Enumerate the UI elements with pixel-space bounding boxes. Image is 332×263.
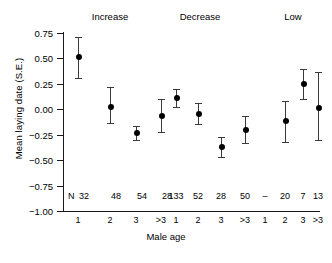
error-bar-cap-upper (218, 137, 225, 138)
data-point-marker (283, 118, 289, 124)
sample-size-value: 20 (280, 191, 290, 201)
y-tick-label: 0.25 (35, 78, 54, 89)
panel-header-increase: Increase (60, 11, 160, 22)
data-point-marker (174, 95, 180, 101)
sample-size-value: 133 (168, 191, 183, 201)
sample-size-value: 7 (300, 191, 305, 201)
sample-size-value: 13 (313, 191, 323, 201)
y-tick-label: −0.75 (29, 180, 53, 191)
data-point-marker (108, 104, 114, 110)
data-point-marker (76, 54, 82, 60)
error-bar-cap-upper (158, 99, 165, 100)
data-point-marker (196, 111, 202, 117)
y-tick-mark (57, 160, 63, 161)
x-tick-label: 2 (107, 215, 112, 225)
error-bar-cap-upper (107, 87, 114, 88)
x-tick-label: 3 (218, 215, 223, 225)
x-tick-label: 1 (173, 215, 178, 225)
x-tick-label: 3 (133, 215, 138, 225)
sample-size-value: 48 (111, 191, 121, 201)
x-tick-label: >3 (156, 215, 166, 225)
error-bar-cap-lower (282, 142, 289, 143)
y-tick-mark (57, 33, 63, 34)
sample-size-value: 54 (137, 191, 147, 201)
y-tick-mark (57, 58, 63, 59)
x-tick-label: 3 (300, 215, 305, 225)
error-bar-cap-upper (282, 101, 289, 102)
error-bar-cap-lower (195, 124, 202, 125)
panel-header-decrease: Decrease (150, 11, 250, 22)
y-tick-label: −1.00 (29, 206, 53, 217)
error-bar-cap-lower (133, 140, 140, 141)
data-point-marker (301, 81, 307, 87)
error-bar-cap-upper (195, 103, 202, 104)
sample-size-value: – (262, 191, 267, 201)
error-bar-cap-lower (107, 123, 114, 124)
sample-size-label: N (68, 191, 75, 201)
x-axis-label: Male age (0, 231, 332, 242)
error-bar-cap-upper (173, 89, 180, 90)
y-axis-line (63, 32, 64, 212)
y-tick-label: 0.50 (35, 53, 54, 64)
y-tick-mark (57, 84, 63, 85)
x-tick-label: 1 (262, 215, 267, 225)
y-tick-mark (57, 211, 63, 212)
sample-size-value: 50 (240, 191, 250, 201)
x-tick-label: 1 (75, 215, 80, 225)
y-tick-label: 0.75 (35, 28, 54, 39)
x-tick-label: >3 (313, 215, 323, 225)
data-point-marker (316, 105, 322, 111)
x-tick-label: 2 (195, 215, 200, 225)
chart-figure: Mean laying date (S.E.) 0.750.500.250.00… (0, 0, 332, 263)
y-tick-mark (57, 109, 63, 110)
error-bar-cap-upper (315, 72, 322, 73)
error-bar-cap-upper (300, 69, 307, 70)
x-tick-label: 2 (282, 215, 287, 225)
error-bar-cap-upper (75, 37, 82, 38)
error-bar-cap-upper (242, 116, 249, 117)
data-point-marker (134, 130, 140, 136)
x-axis-line (63, 211, 320, 212)
y-tick-label: 0.00 (35, 104, 54, 115)
error-bar-cap-lower (242, 143, 249, 144)
y-tick-mark (57, 135, 63, 136)
y-axis-label: Mean laying date (S.E.) (13, 34, 24, 184)
sample-size-value: 32 (79, 191, 89, 201)
x-tick-label: >3 (240, 215, 250, 225)
error-bar-cap-lower (75, 78, 82, 79)
error-bar-cap-lower (218, 157, 225, 158)
error-bar-cap-lower (158, 132, 165, 133)
panel-header-low: Low (243, 11, 332, 22)
sample-size-value: 28 (216, 191, 226, 201)
data-point-marker (243, 127, 249, 133)
data-point-marker (159, 113, 165, 119)
y-tick-mark (57, 186, 63, 187)
y-tick-label: −0.50 (29, 155, 53, 166)
sample-size-value: 52 (193, 191, 203, 201)
error-bar-cap-lower (300, 99, 307, 100)
error-bar-cap-lower (315, 140, 322, 141)
error-bar-cap-upper (133, 126, 140, 127)
y-tick-label: −0.25 (29, 129, 53, 140)
data-point-marker (219, 144, 225, 150)
error-bar-cap-lower (173, 107, 180, 108)
